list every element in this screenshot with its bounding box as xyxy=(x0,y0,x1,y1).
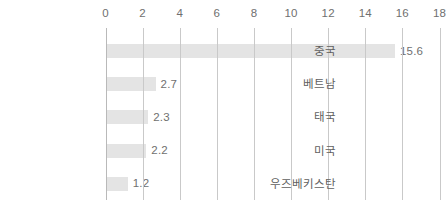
gridline xyxy=(365,28,366,200)
category-label: 중국 xyxy=(242,44,342,58)
category-label: 미국 xyxy=(242,144,342,158)
bar[interactable] xyxy=(106,144,147,158)
x-axis-tick-labels: 024681012141618 xyxy=(0,0,447,28)
category-label: 우즈베키스탄 xyxy=(242,177,342,191)
bar-value-label: 15.6 xyxy=(400,44,423,59)
x-axis-tick-label: 14 xyxy=(359,7,372,19)
x-axis-tick-label: 12 xyxy=(322,7,335,19)
x-axis-tick-label: 6 xyxy=(214,7,221,19)
bar-chart: 024681012141618 15.62.72.32.21.2 중국베트남태국… xyxy=(0,0,447,213)
x-axis-tick-label: 8 xyxy=(251,7,258,19)
gridline xyxy=(440,28,441,200)
category-label: 베트남 xyxy=(242,77,342,91)
gridline xyxy=(180,28,181,200)
axis-line-zero xyxy=(106,28,107,200)
gridline xyxy=(217,28,218,200)
bar-value-label: 2.3 xyxy=(153,110,170,125)
bar-value-label: 2.2 xyxy=(151,143,168,158)
bar-value-label: 2.7 xyxy=(161,77,178,92)
gridline xyxy=(143,28,144,200)
x-axis-tick-label: 16 xyxy=(396,7,409,19)
bar[interactable] xyxy=(106,77,156,91)
x-axis-tick-label: 18 xyxy=(433,7,446,19)
gridline xyxy=(402,28,403,200)
x-axis-tick-label: 4 xyxy=(176,7,183,19)
x-axis-tick-label: 0 xyxy=(102,7,109,19)
x-axis-tick-label: 10 xyxy=(284,7,297,19)
x-axis-tick-label: 2 xyxy=(139,7,146,19)
bar-value-label: 1.2 xyxy=(133,176,150,191)
category-label: 태국 xyxy=(242,110,342,124)
bar[interactable] xyxy=(106,177,128,191)
